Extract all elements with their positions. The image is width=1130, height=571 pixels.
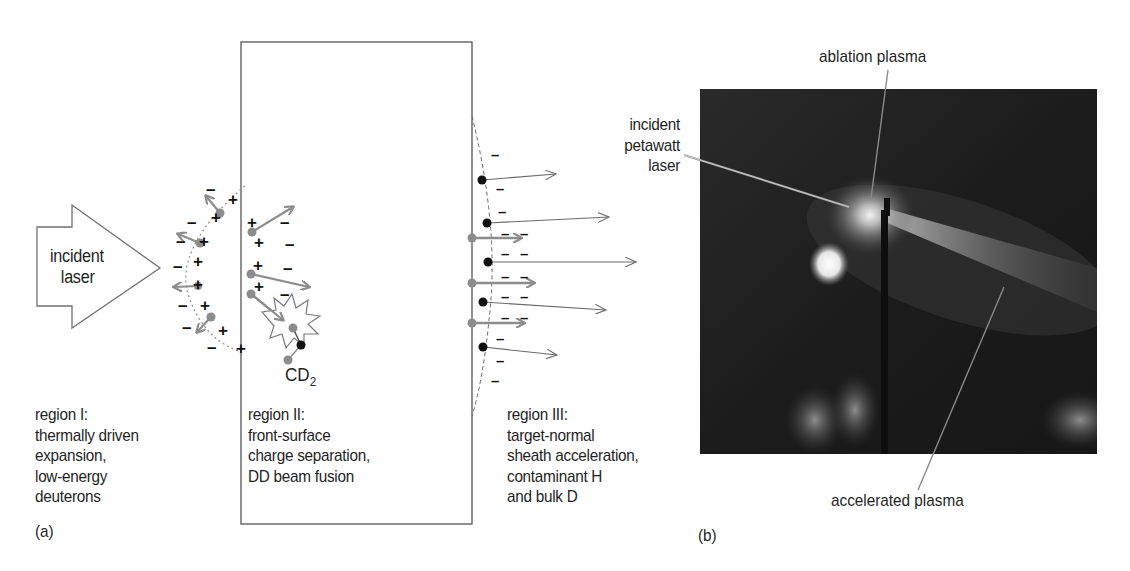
region-2-description: region II: front-surface charge separati…	[248, 405, 370, 487]
plus-sign: +	[236, 339, 246, 359]
callout-line: laser	[608, 156, 680, 177]
panel-a-tag: (a)	[35, 522, 54, 542]
minus-sign: –	[520, 288, 528, 305]
plus-sign: +	[193, 252, 203, 272]
region-line: sheath acceleration,	[507, 446, 639, 467]
plus-sign: +	[211, 208, 221, 228]
plasma-photo	[700, 89, 1130, 455]
minus-sign: –	[501, 309, 509, 326]
region-line: and bulk D	[507, 487, 639, 508]
callout-line: petawatt	[608, 136, 680, 157]
plus-sign: +	[193, 275, 203, 295]
incident-laser-label-line: incident	[50, 246, 104, 267]
minus-sign: –	[491, 372, 499, 389]
minus-sign: –	[520, 309, 528, 326]
plus-sign: +	[254, 277, 264, 297]
region-line: front-surface	[248, 426, 370, 447]
cd2-label: CD2	[285, 364, 316, 389]
minus-sign: –	[491, 146, 499, 163]
minus-sign: –	[280, 213, 289, 233]
minus-sign: –	[496, 330, 504, 347]
minus-sign: –	[501, 288, 509, 305]
minus-sign: –	[520, 245, 528, 262]
plus-sign: +	[254, 233, 264, 253]
minus-sign: –	[501, 225, 509, 242]
region-line: expansion,	[35, 446, 139, 467]
region-3-description: region III: target-normal sheath acceler…	[507, 405, 639, 508]
region-3-electron-tracks	[478, 174, 637, 355]
region-line: contaminant H	[507, 467, 639, 488]
fusion-burst-icon	[262, 294, 320, 348]
region-line: deuterons	[35, 487, 139, 508]
plus-sign: +	[228, 190, 238, 210]
minus-sign: –	[182, 318, 191, 338]
plus-sign: +	[199, 232, 209, 252]
accelerated-plasma-label: accelerated plasma	[831, 491, 964, 511]
minus-sign: –	[501, 268, 509, 285]
cd2-label-subscript: 2	[310, 374, 317, 389]
minus-sign: –	[176, 232, 185, 252]
minus-sign: –	[283, 259, 292, 279]
incident-laser-label-line: laser	[50, 267, 104, 288]
minus-sign: –	[178, 296, 187, 316]
region-title: region III:	[507, 405, 639, 426]
minus-sign: –	[520, 225, 528, 242]
region-line: thermally driven	[35, 426, 139, 447]
plus-sign: +	[253, 256, 263, 276]
region-1-description: region I: thermally driven expansion, lo…	[35, 405, 139, 508]
plus-sign: +	[200, 296, 210, 316]
minus-sign: –	[501, 245, 509, 262]
minus-sign: –	[520, 268, 528, 285]
minus-sign: –	[207, 338, 216, 358]
ablation-plasma-label: ablation plasma	[819, 47, 926, 67]
cd2-label-base: CD	[285, 364, 310, 385]
minus-sign: –	[280, 285, 289, 305]
figure: – + – + – + – + + – + – + – + + – + – + …	[0, 0, 1130, 571]
region-line: low-energy	[35, 467, 139, 488]
plus-sign: +	[218, 321, 228, 341]
incident-petawatt-laser-label: incident petawatt laser	[600, 115, 680, 177]
callout-line: incident	[608, 115, 680, 136]
minus-sign: –	[496, 180, 504, 197]
panel-b-tag: (b)	[698, 526, 717, 546]
minus-sign: –	[206, 180, 215, 200]
minus-sign: –	[498, 203, 506, 220]
region-title: region I:	[35, 405, 139, 426]
plus-sign: +	[247, 213, 257, 233]
minus-sign: –	[496, 352, 504, 369]
minus-sign: –	[187, 213, 196, 233]
region-line: charge separation,	[248, 446, 370, 467]
minus-sign: –	[285, 235, 294, 255]
region-line: DD beam fusion	[248, 467, 370, 488]
minus-sign: –	[173, 257, 182, 277]
region-line: target-normal	[507, 426, 639, 447]
region-title: region II:	[248, 405, 370, 426]
incident-laser-label: incident laser	[50, 246, 104, 288]
